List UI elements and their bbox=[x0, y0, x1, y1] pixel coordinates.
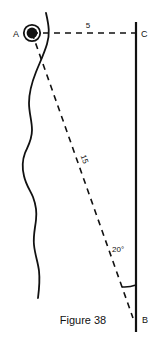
angle-arc-b bbox=[122, 285, 136, 287]
diagram-canvas: A C B 5 15 20° Figure 38 bbox=[0, 0, 153, 346]
angle-label-b: 20° bbox=[112, 245, 124, 254]
point-label-a: A bbox=[13, 29, 19, 39]
figure-38-diagram: A C B 5 15 20° Figure 38 bbox=[0, 0, 153, 346]
length-label-ab: 15 bbox=[79, 154, 91, 166]
point-a-dot bbox=[27, 28, 38, 39]
point-label-c: C bbox=[141, 29, 148, 39]
figure-caption: Figure 38 bbox=[60, 314, 106, 326]
shoreline-curve bbox=[23, 13, 49, 298]
segment-ab-dashed bbox=[32, 33, 133, 318]
length-label-ac: 5 bbox=[86, 21, 91, 30]
point-label-b: B bbox=[142, 315, 148, 325]
